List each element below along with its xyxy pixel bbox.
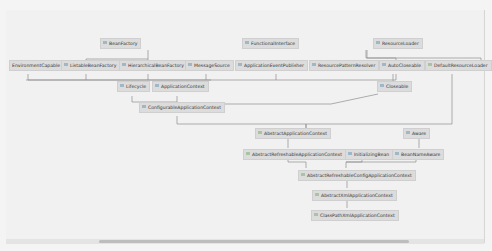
class-node-hierarchical-bean-factory[interactable]: HierarchicalBeanFactory bbox=[119, 60, 188, 71]
class-node-initializing-bean[interactable]: InitializingBean bbox=[345, 149, 393, 160]
class-node-environment-capable[interactable]: EnvironmentCapable bbox=[9, 60, 64, 71]
interface-icon bbox=[380, 84, 384, 87]
class-icon bbox=[428, 63, 432, 66]
class-node-resource-pattern-resolver[interactable]: ResourcePatternResolver bbox=[309, 60, 379, 71]
class-node-closeable[interactable]: Closeable bbox=[377, 81, 412, 92]
class-node-configurable-application-context[interactable]: ConfigurableApplicationContext bbox=[139, 102, 225, 113]
interface-icon bbox=[120, 84, 124, 87]
interface-icon bbox=[155, 84, 159, 87]
class-node-bean-factory[interactable]: BeanFactory bbox=[100, 38, 141, 49]
class-node-abstract-xml-application-context[interactable]: AbstractXmlApplicationContext bbox=[312, 190, 397, 201]
interface-icon bbox=[238, 63, 242, 66]
interface-icon bbox=[103, 41, 107, 44]
class-node-application-context[interactable]: ApplicationContext bbox=[152, 81, 209, 92]
class-node-message-source[interactable]: MessageSource bbox=[185, 60, 234, 71]
annotation-icon bbox=[245, 41, 249, 44]
scrollbar-thumb[interactable] bbox=[99, 240, 409, 243]
diagram-canvas[interactable]: BeanFactory FunctionalInterface Resource… bbox=[6, 10, 485, 243]
abstract-class-icon bbox=[246, 152, 250, 155]
class-node-abstract-refreshable-config-application-context[interactable]: AbstractRefreshableConfigApplicationCont… bbox=[298, 170, 416, 181]
class-node-abstract-application-context[interactable]: AbstractApplicationContext bbox=[255, 128, 331, 139]
class-node-lifecycle[interactable]: Lifecycle bbox=[117, 81, 150, 92]
class-node-bean-name-aware[interactable]: BeanNameAware bbox=[392, 149, 444, 160]
abstract-class-icon bbox=[301, 173, 305, 176]
interface-icon bbox=[382, 63, 386, 66]
interface-icon bbox=[64, 63, 68, 66]
class-node-abstract-refreshable-application-context[interactable]: AbstractRefreshableApplicationContext bbox=[243, 149, 346, 160]
abstract-class-icon bbox=[315, 193, 319, 196]
class-node-functional-interface[interactable]: FunctionalInterface bbox=[242, 38, 299, 49]
interface-icon bbox=[312, 63, 316, 66]
interface-icon bbox=[188, 63, 192, 66]
abstract-class-icon bbox=[258, 131, 262, 134]
class-node-auto-closeable[interactable]: AutoCloseable bbox=[379, 60, 425, 71]
class-node-listable-bean-factory[interactable]: ListableBeanFactory bbox=[61, 60, 120, 71]
class-node-default-resource-loader[interactable]: DefaultResourceLoader bbox=[425, 60, 492, 71]
class-node-resource-loader[interactable]: ResourceLoader bbox=[373, 38, 423, 49]
class-node-application-event-publisher[interactable]: ApplicationEventPublisher bbox=[235, 60, 308, 71]
class-node-class-path-xml-application-context[interactable]: ClassPathXmlApplicationContext bbox=[311, 210, 399, 221]
interface-icon bbox=[142, 105, 146, 108]
horizontal-scrollbar[interactable] bbox=[6, 239, 484, 244]
class-icon bbox=[314, 213, 318, 216]
interface-icon bbox=[122, 63, 126, 66]
interface-icon bbox=[395, 152, 399, 155]
interface-icon bbox=[376, 41, 380, 44]
interface-icon bbox=[406, 131, 410, 134]
class-node-aware[interactable]: Aware bbox=[403, 128, 430, 139]
interface-icon bbox=[348, 152, 352, 155]
